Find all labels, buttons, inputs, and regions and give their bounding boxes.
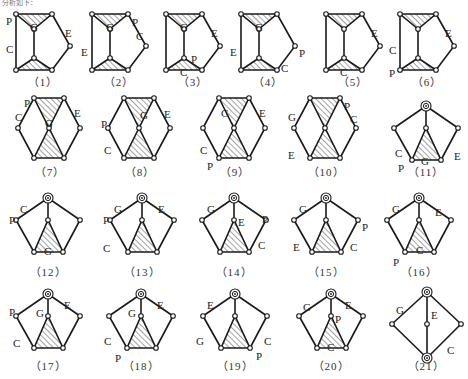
vertex-label-e: E: [207, 299, 214, 311]
node-circle-icon: [62, 156, 67, 161]
node-circle-icon: [200, 68, 205, 73]
graph-edge: [249, 128, 265, 158]
node-circle-icon: [122, 96, 127, 101]
vertex-label-g: G: [180, 21, 188, 33]
node-circle-icon: [292, 126, 297, 131]
node-circle-icon: [297, 314, 302, 319]
node-circle-icon: [424, 126, 429, 131]
node-circle-icon: [275, 12, 280, 17]
graph-edge: [16, 220, 34, 252]
node-circle-icon: [217, 96, 222, 101]
node-circle-icon: [126, 12, 131, 17]
node-circle-icon: [324, 12, 329, 17]
node-circle-icon: [342, 27, 347, 32]
vertex-label-g: G: [114, 203, 122, 215]
vertex-label-g: G: [255, 21, 263, 33]
figure-19: EGCP: [193, 284, 279, 364]
graph-edge: [128, 46, 146, 70]
double-ring-node-icon: [321, 193, 331, 203]
vertex-label-p: P: [24, 97, 30, 109]
vertex-label-c: C: [200, 144, 207, 156]
hatched-triangle: [124, 128, 154, 158]
vertex-label-p: P: [191, 53, 197, 65]
node-circle-icon: [310, 250, 315, 255]
header-fragment: 分析如下：: [2, 0, 37, 7]
figure-caption: （4）: [238, 73, 298, 89]
figure-caption: （21）: [396, 357, 456, 373]
figure-15: GPEC: [284, 188, 370, 268]
double-ring-node-icon: [326, 289, 336, 299]
node-circle-icon: [32, 250, 37, 255]
node-circle-icon: [275, 68, 280, 73]
node-circle-icon: [323, 126, 328, 131]
node-circle-icon: [233, 314, 238, 319]
figure-18: GECP: [99, 284, 185, 364]
double-ring-node-icon: [422, 287, 432, 297]
graph-figure-16: GECP: [377, 188, 463, 268]
hatched-triangle: [219, 128, 249, 158]
vertex-label-c: C: [13, 337, 20, 349]
figure-caption: （7）: [20, 163, 80, 179]
node-circle-icon: [32, 56, 37, 61]
node-circle-icon: [459, 322, 464, 327]
double-ring-node-icon: [414, 193, 424, 203]
vertex-label-g: G: [396, 304, 404, 316]
node-circle-icon: [324, 68, 329, 73]
hatched-triangle: [127, 316, 156, 348]
vertex-label-e: E: [211, 27, 218, 39]
vertex-label-e: E: [81, 46, 88, 58]
vertex-label-p: P: [103, 214, 109, 226]
graph-figure-12: CPG: [6, 188, 92, 268]
vertex-label-e: E: [230, 46, 237, 58]
figure-caption: （9）: [205, 163, 265, 179]
node-circle-icon: [140, 218, 145, 223]
node-circle-icon: [248, 346, 253, 351]
graph-figure-18: GECP: [99, 284, 185, 364]
vertex-label-c: C: [264, 335, 271, 347]
vertex-label-g: G: [303, 301, 311, 313]
node-circle-icon: [324, 218, 329, 223]
graph-edge: [392, 324, 427, 358]
node-circle-icon: [392, 126, 397, 131]
hatched-triangle: [312, 220, 341, 252]
vertex-label-c: C: [136, 30, 143, 42]
vertex-label-e: E: [164, 108, 171, 120]
graph-edge: [394, 106, 426, 128]
figure-caption: （6）: [397, 73, 457, 89]
figure-16: GECP: [377, 188, 463, 268]
vertex-label-c: C: [104, 144, 111, 156]
node-circle-icon: [152, 156, 157, 161]
double-ring-node-icon: [230, 289, 240, 299]
vertex-label-e: E: [74, 107, 81, 119]
graph-edge: [110, 220, 128, 252]
graph-edge: [294, 128, 310, 158]
node-circle-icon: [61, 346, 66, 351]
node-circle-icon: [416, 27, 421, 32]
graph-edge: [108, 98, 124, 128]
vertex-label-g: G: [30, 21, 38, 33]
node-circle-icon: [308, 156, 313, 161]
node-circle-icon: [265, 314, 270, 319]
node-circle-icon: [217, 156, 222, 161]
double-ring-node-icon: [137, 193, 147, 203]
node-circle-icon: [218, 250, 223, 255]
node-circle-icon: [14, 12, 19, 17]
node-circle-icon: [46, 218, 51, 223]
vertex-label-e: E: [259, 107, 266, 119]
node-circle-icon: [152, 96, 157, 101]
node-circle-icon: [16, 126, 21, 131]
vertex-label-c: C: [389, 44, 396, 56]
figure-caption: （8）: [110, 163, 170, 179]
hatched-triangle: [124, 98, 154, 128]
node-circle-icon: [360, 12, 365, 17]
graph-edge: [52, 46, 70, 70]
node-circle-icon: [68, 44, 73, 49]
vertex-label-g: G: [128, 307, 136, 319]
vertex-label-p: P: [101, 118, 107, 130]
figure-13: GPEC: [100, 188, 186, 268]
node-circle-icon: [292, 218, 297, 223]
vertex-label-p: P: [6, 15, 12, 27]
node-circle-icon: [434, 12, 439, 17]
node-circle-icon: [32, 96, 37, 101]
